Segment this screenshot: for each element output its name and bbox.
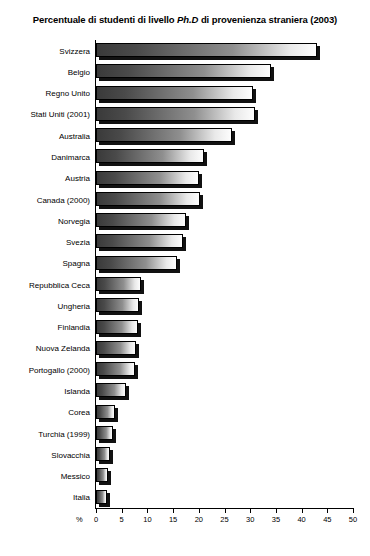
category-label: Islanda	[64, 386, 90, 395]
category-label: Italia	[73, 493, 90, 502]
bar-fill	[96, 490, 107, 504]
bar-fill	[96, 128, 232, 142]
x-tick-5	[122, 508, 123, 513]
x-tick-40	[302, 508, 303, 513]
category-label: Nuova Zelanda	[36, 344, 90, 353]
category-label: Ungheria	[58, 301, 90, 310]
bar-corea	[96, 405, 115, 419]
bar-fill	[96, 341, 136, 355]
x-tick-45	[327, 508, 328, 513]
bar-fill	[96, 107, 255, 121]
x-tick-10	[147, 508, 148, 513]
x-tick-label-10: 10	[143, 515, 151, 524]
bar-italia	[96, 490, 107, 504]
x-tick-label-0: 0	[94, 515, 98, 524]
bar-stati-uniti-2001	[96, 107, 255, 121]
bar-fill	[96, 320, 138, 334]
category-label: Canada (2000)	[37, 195, 90, 204]
chart-title-part1: Percentuale di studenti di livello	[33, 14, 177, 25]
category-label: Danimarca	[51, 152, 90, 161]
x-tick-label-20: 20	[195, 515, 203, 524]
bar-fill	[96, 468, 108, 482]
x-tick-0	[96, 508, 97, 513]
chart-title: Percentuale di studenti di livello Ph.D …	[0, 14, 370, 25]
bar-fill	[96, 213, 186, 227]
bar-fill	[96, 43, 317, 57]
category-label: Regno Unito	[46, 89, 90, 98]
x-tick-20	[199, 508, 200, 513]
bar-fill	[96, 405, 115, 419]
bar-norvegia	[96, 213, 186, 227]
category-label: Svezia	[66, 238, 90, 247]
x-tick-15	[173, 508, 174, 513]
bar-portogallo-2000	[96, 362, 135, 376]
bar-fill	[96, 362, 135, 376]
x-tick-30	[250, 508, 251, 513]
category-label: Portogallo (2000)	[29, 365, 90, 374]
x-tick-label-40: 40	[297, 515, 305, 524]
x-tick-label-25: 25	[220, 515, 228, 524]
x-tick-35	[276, 508, 277, 513]
category-label: Spagna	[62, 259, 90, 268]
chart-container: Percentuale di studenti di livello Ph.D …	[0, 0, 370, 556]
x-tick-label-35: 35	[272, 515, 280, 524]
category-label: Corea	[68, 408, 90, 417]
chart-title-italic: Ph.D	[177, 14, 198, 25]
bar-fill	[96, 383, 126, 397]
x-tick-label-30: 30	[246, 515, 254, 524]
bar-fill	[96, 426, 113, 440]
x-tick-label-15: 15	[169, 515, 177, 524]
bar-regno-unito	[96, 86, 253, 100]
bar-svizzera	[96, 43, 317, 57]
category-label: Stati Uniti (2001)	[30, 110, 90, 119]
category-label: Turchia (1999)	[38, 429, 90, 438]
bar-fill	[96, 86, 253, 100]
bar-turchia-1999	[96, 426, 113, 440]
bar-austria	[96, 171, 199, 185]
bar-belgio	[96, 64, 271, 78]
bar-fill	[96, 149, 204, 163]
bar-slovacchia	[96, 447, 110, 461]
bar-australia	[96, 128, 232, 142]
bar-svezia	[96, 234, 183, 248]
category-label: Belgio	[68, 67, 90, 76]
bar-fill	[96, 64, 271, 78]
x-tick-label-50: 50	[349, 515, 357, 524]
x-tick-label-45: 45	[323, 515, 331, 524]
bar-fill	[96, 298, 139, 312]
category-label: Svizzera	[59, 46, 90, 55]
category-label: Repubblica Ceca	[29, 280, 90, 289]
bar-nuova-zelanda	[96, 341, 136, 355]
bar-ungheria	[96, 298, 139, 312]
bar-fill	[96, 171, 199, 185]
chart-title-part2: di provenienza straniera (2003)	[198, 14, 337, 25]
bar-fill	[96, 192, 200, 206]
category-label: Slovacchia	[51, 450, 90, 459]
x-tick-25	[225, 508, 226, 513]
category-label: Austria	[65, 174, 90, 183]
category-label: Messico	[61, 472, 90, 481]
x-tick-50	[353, 508, 354, 513]
bar-canada-2000	[96, 192, 200, 206]
bar-islanda	[96, 383, 126, 397]
category-label: Norvegia	[58, 216, 90, 225]
bar-fill	[96, 234, 183, 248]
x-axis-unit-label: %	[76, 515, 83, 524]
category-label: Australia	[59, 131, 90, 140]
bar-fill	[96, 256, 177, 270]
plot-area: 05101520253035404550 SvizzeraBelgioRegno…	[96, 40, 353, 508]
bar-fill	[96, 277, 141, 291]
bar-spagna	[96, 256, 177, 270]
category-label: Finlandia	[58, 323, 90, 332]
bar-fill	[96, 447, 110, 461]
bar-messico	[96, 468, 108, 482]
bar-danimarca	[96, 149, 204, 163]
bar-finlandia	[96, 320, 138, 334]
bar-repubblica-ceca	[96, 277, 141, 291]
x-tick-label-5: 5	[120, 515, 124, 524]
